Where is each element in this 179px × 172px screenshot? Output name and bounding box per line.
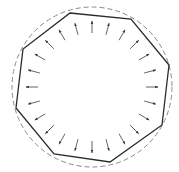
arrow-icon xyxy=(144,70,156,73)
arrow-icon xyxy=(59,30,65,40)
arrow-icon xyxy=(139,54,149,60)
arrow-icon xyxy=(144,101,156,104)
arrow-icon xyxy=(139,114,149,120)
arrow-icon xyxy=(28,70,40,73)
arrow-icon xyxy=(75,139,78,151)
arrow-icon xyxy=(35,54,45,60)
arrow-icon xyxy=(106,139,109,151)
arrow-icon xyxy=(119,30,125,40)
arrow-icon xyxy=(28,101,40,104)
arrow-icon xyxy=(45,40,54,49)
arrow-icon xyxy=(119,134,125,144)
octagon-circle-diagram xyxy=(0,0,179,172)
arrow-icon xyxy=(130,40,139,49)
arrow-icon xyxy=(35,114,45,120)
arrow-icon xyxy=(106,23,109,35)
octagon-polygon xyxy=(16,13,169,162)
arrow-icon xyxy=(75,23,78,35)
arrow-icon xyxy=(59,134,65,144)
outward-arrows xyxy=(26,21,158,153)
arrow-icon xyxy=(130,125,139,134)
arrow-icon xyxy=(45,125,54,134)
